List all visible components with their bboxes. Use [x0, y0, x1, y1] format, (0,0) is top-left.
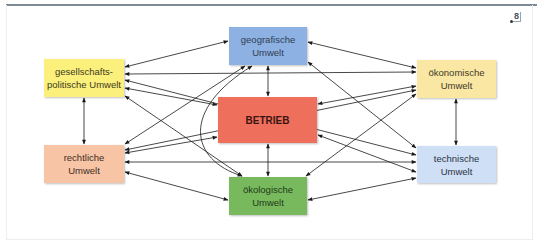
node-betrieb: BETRIEB [218, 97, 317, 143]
node-oekonomische-umwelt: ökonomische Umwelt [417, 60, 496, 98]
node-label: BETRIEB [246, 114, 290, 127]
edge-geo-oek [308, 42, 416, 68]
edge-rec-okol [125, 172, 228, 200]
edge-ges-oek [125, 72, 416, 74]
edge-oek-bet [318, 86, 416, 104]
edge-ges-geo [125, 41, 228, 67]
node-label: ökonomische Umwelt [429, 66, 485, 92]
node-gesellschaftspolitische-umwelt: gesellschafts- politische Umwelt [44, 59, 124, 97]
node-technische-umwelt: technische Umwelt [417, 146, 496, 183]
node-label: rechtliche Umwelt [64, 151, 105, 177]
node-oekologische-umwelt: ökologische Umwelt [229, 177, 307, 215]
node-label: geografische Umwelt [241, 33, 295, 59]
edge-ges-bet [125, 88, 217, 105]
node-label: gesellschafts- politische Umwelt [47, 65, 121, 91]
edge-tec-okol [308, 178, 416, 200]
node-label: technische Umwelt [434, 152, 479, 178]
edge-tec-bet [318, 135, 416, 172]
node-label: ökologische Umwelt [243, 183, 293, 209]
node-geografische-umwelt: geografische Umwelt [229, 27, 307, 65]
node-rechtliche-umwelt: rechtliche Umwelt [44, 145, 124, 183]
edge-geo-tec [308, 62, 416, 148]
